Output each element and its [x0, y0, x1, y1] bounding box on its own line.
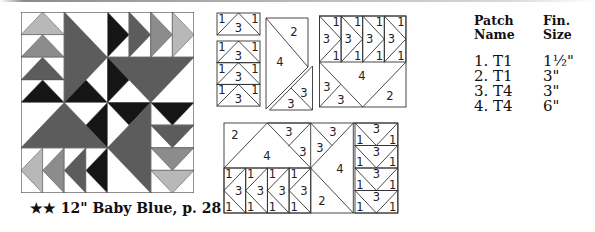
- patch-number-label: 3: [287, 97, 294, 111]
- patch-number-label: 1: [397, 15, 404, 29]
- patch-number-label: 1: [247, 167, 254, 181]
- patch-number-label: 1: [356, 155, 363, 169]
- patch-number-label: 3: [373, 190, 380, 204]
- row-4-patch: 4. T4: [474, 99, 513, 114]
- patch-number-label: 3: [373, 122, 380, 136]
- block-caption: ★★ 12" Baby Blue, p. 28: [30, 200, 221, 216]
- patch-number-label: 1: [290, 200, 297, 214]
- patch-number-label: 1: [290, 167, 297, 181]
- patch-number-label: 3: [373, 145, 380, 159]
- patch-number-label: 1: [269, 200, 276, 214]
- patch-number-label: 4: [263, 149, 270, 163]
- patch-number-label: 4: [358, 69, 365, 83]
- header-name: Name: [474, 28, 515, 42]
- patch-number-label: 1: [389, 155, 396, 169]
- patch-number-label: 3: [344, 32, 351, 46]
- patch-number-label: 1: [356, 178, 363, 192]
- patch-number-label: 1: [269, 167, 276, 181]
- patch-number-label: 1: [389, 133, 396, 147]
- patch-number-label: 3: [257, 184, 264, 198]
- patch-number-label: 1: [354, 15, 361, 29]
- patch-number-label: 1: [225, 200, 232, 214]
- patch-number-label: 4: [336, 162, 343, 176]
- patch-number-label: 2: [386, 89, 393, 103]
- patch-number-label: 2: [290, 25, 297, 39]
- patch-number-label: 3: [316, 141, 323, 155]
- patch-number-label: 4: [276, 55, 283, 69]
- patch-number-label: 3: [323, 32, 330, 46]
- patch-number-label: 1: [218, 62, 225, 76]
- patch-number-label: 3: [235, 49, 242, 63]
- patch-number-label: 2: [231, 128, 238, 142]
- header-fin: Fin.: [543, 14, 570, 28]
- patch-number-label: 1: [389, 200, 396, 214]
- patch-number-label: 1: [332, 49, 339, 63]
- patch-number-label: 3: [366, 32, 373, 46]
- patch-number-label: 3: [235, 70, 242, 84]
- patch-number-label: 1: [218, 40, 225, 54]
- patch-number-label: 3: [323, 80, 330, 94]
- patch-number-label: 1: [251, 83, 258, 97]
- patch-number-label: 3: [285, 125, 292, 139]
- header-patch: Patch: [474, 14, 514, 28]
- patch-number-label: 1: [251, 40, 258, 54]
- patch-number-label: 1: [376, 15, 383, 29]
- patch-number-label: 1: [218, 83, 225, 97]
- patch-number-label: 2: [318, 194, 325, 208]
- patch-number-label: 3: [278, 184, 285, 198]
- patch-number-label: 3: [235, 92, 242, 106]
- patch-number-label: 1: [356, 200, 363, 214]
- patch-number-label: 3: [337, 93, 344, 107]
- patch-number-label: 3: [300, 86, 307, 100]
- patch-number-label: 1: [397, 49, 404, 63]
- patch-number-label: 1: [225, 167, 232, 181]
- patch-number-label: 3: [299, 145, 306, 159]
- patch-number-label: 3: [388, 32, 395, 46]
- patch-number-label: 1: [356, 133, 363, 147]
- patch-number-label: 3: [329, 125, 336, 139]
- patch-number-label: 1: [376, 49, 383, 63]
- patch-number-label: 3: [300, 184, 307, 198]
- patch-number-label: 1: [354, 49, 361, 63]
- row-4-size: 6": [543, 99, 559, 114]
- patch-number-label: 1: [218, 12, 225, 26]
- patch-number-label: 1: [389, 178, 396, 192]
- patch-number-label: 3: [235, 21, 242, 35]
- patch-number-label: 1: [251, 12, 258, 26]
- patch-number-label: 1: [251, 62, 258, 76]
- patch-number-label: 3: [235, 184, 242, 198]
- patch-number-label: 3: [373, 167, 380, 181]
- header-size: Size: [543, 28, 572, 42]
- patch-number-label: 1: [247, 200, 254, 214]
- patch-number-label: 1: [332, 15, 339, 29]
